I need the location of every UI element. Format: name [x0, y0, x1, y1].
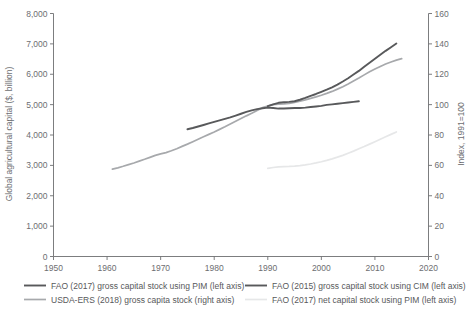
legend-item: USDA-ERS (2018) gross capita stock (righ… [24, 295, 234, 305]
x-tick-label: 1950 [44, 263, 63, 273]
x-tick-label: 1960 [98, 263, 117, 273]
right-tick-label: 100 [435, 100, 449, 110]
right-axis-title: Index, 1991=100 [456, 102, 466, 166]
right-tick-label: 60 [435, 160, 445, 170]
right-tick-label: 40 [435, 191, 445, 201]
right-tick-label: 140 [435, 39, 449, 49]
legend-label: FAO (2015) gross capital stock using CIM… [272, 281, 466, 291]
legend-item: FAO (2017) net capital stock using PIM (… [245, 295, 456, 305]
x-tick-label: 2000 [312, 263, 331, 273]
left-axis-title: Global agricultural capital ($, billion) [4, 67, 14, 202]
left-tick-label: 2,000 [26, 191, 48, 201]
x-tick-label: 1970 [151, 263, 170, 273]
legend-item: FAO (2015) gross capital stock using CIM… [245, 281, 466, 291]
legend-label: FAO (2017) net capital stock using PIM (… [272, 295, 456, 305]
left-tick-label: 3,000 [26, 160, 48, 170]
right-tick-label: 120 [435, 69, 449, 79]
legend-label: FAO (2017) gross capital stock using PIM… [51, 281, 244, 291]
left-tick-label: 4,000 [26, 130, 48, 140]
left-tick-label: 7,000 [26, 39, 48, 49]
x-tick-label: 2010 [365, 263, 384, 273]
x-tick-label: 2020 [419, 263, 438, 273]
left-tick-label: 1,000 [26, 221, 48, 231]
left-tick-label: 8,000 [26, 9, 48, 19]
left-tick-label: 5,000 [26, 100, 48, 110]
right-tick-label: 160 [435, 9, 449, 19]
left-tick-label: 6,000 [26, 69, 48, 79]
line-chart: 01,0002,0003,0004,0005,0006,0007,0008,00… [0, 0, 470, 311]
right-tick-label: 0 [435, 252, 440, 262]
right-tick-label: 80 [435, 130, 445, 140]
x-tick-label: 1990 [258, 263, 277, 273]
right-tick-label: 20 [435, 221, 445, 231]
x-tick-label: 1980 [205, 263, 224, 273]
left-tick-label: 0 [43, 252, 48, 262]
chart-background [0, 0, 470, 311]
legend-label: USDA-ERS (2018) gross capita stock (righ… [51, 295, 234, 305]
chart-figure: 01,0002,0003,0004,0005,0006,0007,0008,00… [0, 0, 470, 311]
legend-item: FAO (2017) gross capital stock using PIM… [24, 281, 244, 291]
left-axis-tick-labels: 01,0002,0003,0004,0005,0006,0007,0008,00… [26, 9, 48, 262]
